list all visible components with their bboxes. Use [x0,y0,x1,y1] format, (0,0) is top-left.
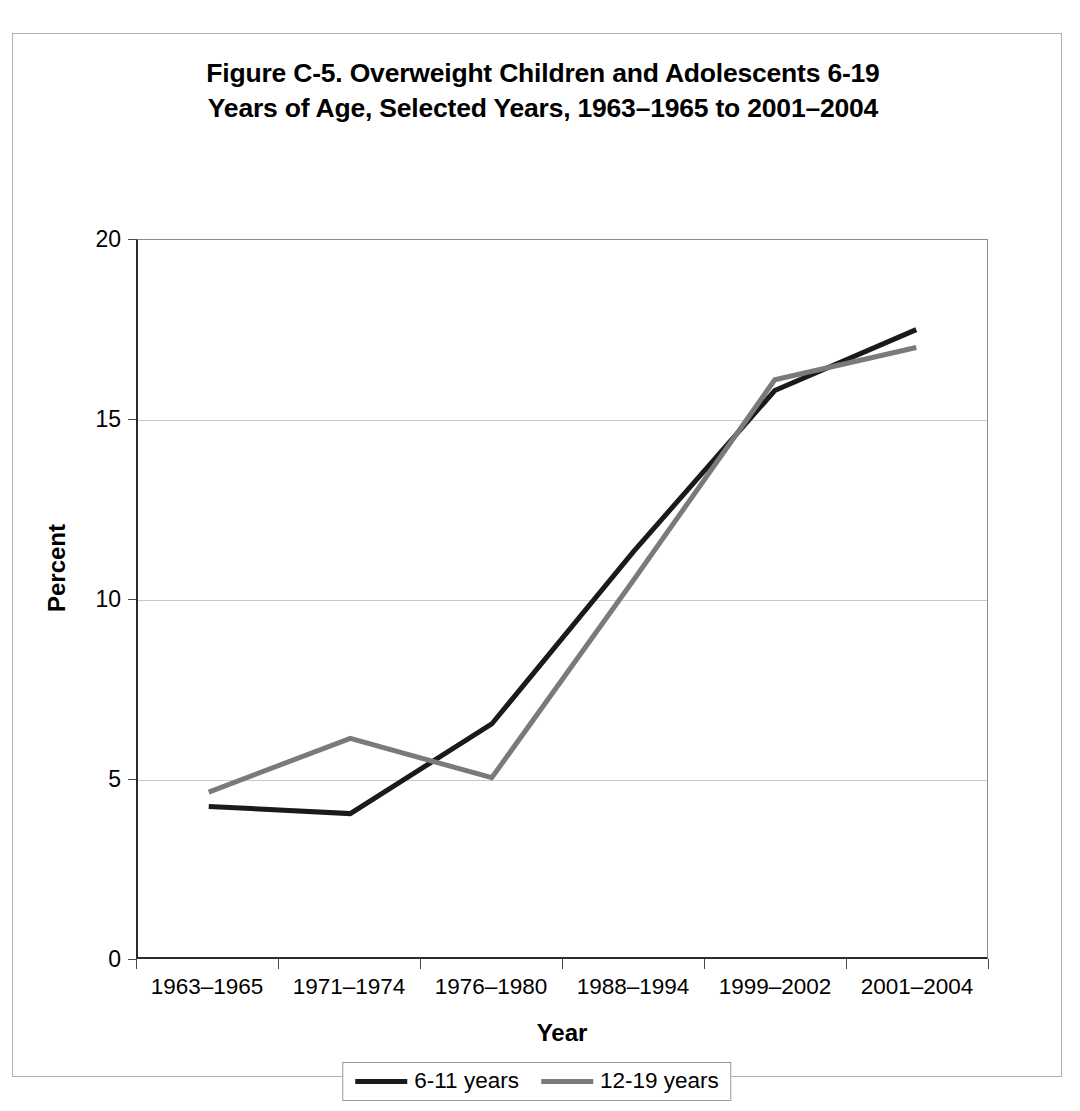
series-line [209,348,917,793]
legend-label: 12-19 years [600,1068,719,1094]
figure-frame: Figure C-5. Overweight Children and Adol… [12,33,1062,1077]
y-axis-tick-label: 0 [51,946,121,973]
x-axis-tick-mark [988,959,989,969]
chart-title-line-1: Figure C-5. Overweight Children and Adol… [103,56,983,91]
series-line [209,330,917,814]
legend-entry[interactable]: 12-19 years [541,1068,719,1094]
y-axis-tick-label: 5 [51,766,121,793]
series-lines [138,240,987,957]
legend-line-icon [355,1079,407,1084]
x-axis-tick-mark [704,959,705,969]
y-axis-tick-label: 15 [51,406,121,433]
y-axis-tick-label: 10 [51,586,121,613]
x-axis-tick-mark [278,959,279,969]
y-axis-tick-label: 20 [51,226,121,253]
x-axis-tick-mark [562,959,563,969]
chart-legend: 6-11 years12-19 years [342,1062,731,1101]
legend-entry[interactable]: 6-11 years [355,1068,519,1094]
x-axis-tick-mark [420,959,421,969]
x-axis-title: Year [136,1019,988,1047]
legend-line-icon [541,1079,593,1084]
chart-title: Figure C-5. Overweight Children and Adol… [103,56,983,126]
x-axis-tick-mark [846,959,847,969]
chart-title-line-2: Years of Age, Selected Years, 1963–1965 … [103,91,983,126]
y-axis-tick-labels: 05101520 [33,239,121,959]
x-axis-tick-label: 2001–2004 [822,974,1012,1000]
plot-area [136,239,988,959]
legend-label: 6-11 years [414,1068,519,1094]
x-axis-tick-mark [136,959,137,969]
